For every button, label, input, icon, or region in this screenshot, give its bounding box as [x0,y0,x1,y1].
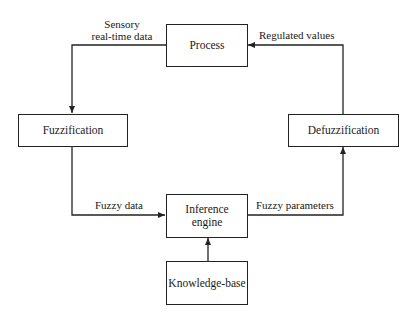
defuzzification-node: Defuzzification [288,114,399,147]
regulated-values-label: Regulated values [259,29,334,41]
sensory-label-line2: real-time data [88,30,156,42]
knowledge-base-node: Knowledge-base [166,261,248,305]
sensory-data-label: Sensory real-time data [88,18,156,42]
sensory-label-line1: Sensory [88,18,156,30]
inference-label-line2: engine [192,216,223,229]
inference-label-line1: Inference [185,203,228,216]
fuzzy-data-label: Fuzzy data [95,199,143,211]
process-node: Process [166,24,248,67]
edge-process-to-fuzzification [72,45,166,113]
process-label: Process [189,39,224,52]
defuzzification-label: Defuzzification [308,124,380,137]
fuzzification-node: Fuzzification [18,114,128,147]
fuzzy-parameters-label: Fuzzy parameters [256,199,334,211]
edge-defuzzification-to-process [248,45,343,114]
fuzzification-label: Fuzzification [43,124,104,137]
inference-engine-node: Inference engine [166,194,248,238]
knowledge-base-label: Knowledge-base [168,277,245,290]
